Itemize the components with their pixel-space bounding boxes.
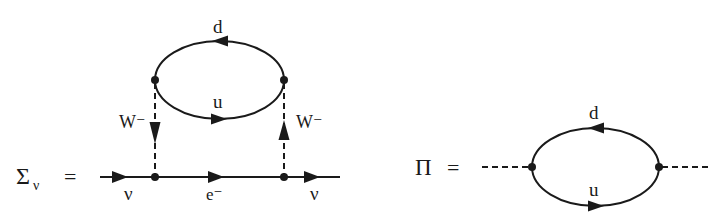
sigma-subscript: ν bbox=[33, 178, 39, 193]
label-w-left: W⁻ bbox=[119, 112, 146, 132]
vertex-loop-left bbox=[151, 76, 159, 84]
label-u-2: u bbox=[589, 179, 599, 200]
label-nu-in: ν bbox=[124, 183, 133, 204]
sigma-symbol: Σ bbox=[16, 163, 30, 189]
arrow-u-quark-icon bbox=[211, 114, 227, 125]
equals-sign: = bbox=[64, 164, 76, 189]
vertex-loop-right bbox=[280, 76, 288, 84]
arrow-w-right-icon bbox=[279, 120, 290, 140]
vertex-line-right bbox=[280, 173, 288, 181]
arrow-incoming-icon bbox=[112, 171, 128, 183]
label-w-right: W⁻ bbox=[296, 112, 323, 132]
label-u: u bbox=[213, 91, 223, 112]
label-d-2: d bbox=[589, 102, 599, 123]
arrow-d-quark-icon bbox=[212, 36, 228, 47]
feynman-diagrams: Σ ν = d u W⁻ W⁻ ν e⁻ ν Π = bbox=[0, 0, 726, 221]
pi-symbol: Π bbox=[415, 155, 432, 180]
equals-sign-2: = bbox=[447, 155, 459, 180]
arrow-u-quark-2-icon bbox=[588, 201, 604, 212]
arrow-internal-icon bbox=[208, 171, 224, 183]
arrow-w-left-icon bbox=[150, 122, 161, 144]
arrow-d-quark-2-icon bbox=[588, 123, 604, 134]
label-nu-out: ν bbox=[310, 183, 319, 204]
vertex-left-2 bbox=[528, 163, 536, 171]
vertex-right-2 bbox=[655, 163, 663, 171]
vertex-line-left bbox=[151, 173, 159, 181]
self-energy-diagram: Σ ν = d u W⁻ W⁻ ν e⁻ ν bbox=[16, 16, 340, 204]
polarization-diagram: Π = d u bbox=[415, 102, 710, 212]
arrow-outgoing-icon bbox=[304, 171, 320, 183]
label-d: d bbox=[213, 16, 223, 37]
label-electron: e⁻ bbox=[206, 185, 223, 204]
